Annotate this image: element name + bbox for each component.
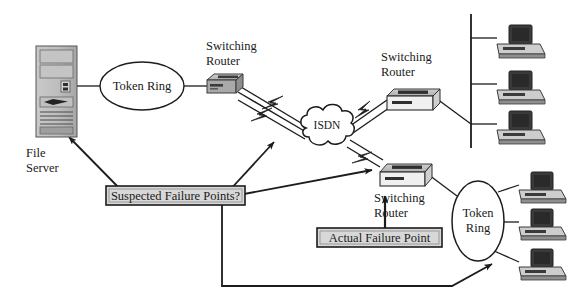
router-left-label-line2: Router <box>206 54 241 68</box>
lightning-bolt-icon <box>262 96 283 109</box>
router-top-right-label-line1: Switching <box>381 50 432 64</box>
isdn-trunk-bottom-right <box>347 140 383 167</box>
network-diagram: Token Ring Switching Router ISDN Switchi… <box>0 0 578 303</box>
workstation-bottom-3 <box>519 249 566 280</box>
router-left-icon <box>207 74 243 93</box>
isdn-trunk-left <box>236 84 306 139</box>
workstation-bottom-2 <box>519 209 566 240</box>
token-ring-right-label-line1: Token <box>462 206 494 220</box>
file-server-label-line1: File <box>26 146 46 160</box>
isdn-cloud-icon: ISDN <box>301 104 354 144</box>
workstation-top-2 <box>497 71 545 104</box>
suspected-failure-callout[interactable]: Suspected Failure Points? <box>106 186 245 205</box>
arrow-suspected-to-server <box>69 137 124 193</box>
tower-server-icon <box>36 46 77 137</box>
isdn-trunk-line-2 <box>238 92 306 132</box>
file-server-label-line2: Server <box>26 161 59 175</box>
isdn-link-bottom-2 <box>347 147 380 167</box>
diagram-canvas: Token Ring Switching Router ISDN Switchi… <box>0 0 578 303</box>
actual-failure-label: Actual Failure Point <box>329 231 431 245</box>
token-ring-right-node: Token Ring <box>452 181 504 261</box>
token-ring-right-label-line2: Ring <box>466 221 491 235</box>
router-top-right-icon <box>387 89 440 110</box>
lightning-bolt-icon <box>355 101 370 118</box>
isdn-trunk-top-right <box>350 100 389 133</box>
router-bottom-right-label-line2: Router <box>374 206 409 220</box>
isdn-label: ISDN <box>314 119 342 131</box>
lightning-bolt-icon <box>352 152 372 163</box>
router-top-right-label-line2: Router <box>381 65 416 79</box>
arrow-suspected-to-router-bottom <box>244 170 372 194</box>
token-ring-left-node: Token Ring <box>100 62 184 110</box>
workstation-top-3 <box>497 111 545 144</box>
router-left-label-line1: Switching <box>206 39 257 53</box>
ring-drop-3 <box>492 250 519 262</box>
workstation-bottom-1 <box>519 172 566 203</box>
router-bottom-right-label-line1: Switching <box>374 191 425 205</box>
workstation-top-1 <box>497 25 545 58</box>
isdn-link-bottom-1 <box>350 140 383 160</box>
router-bottom-right-icon <box>380 164 432 186</box>
suspected-failure-label: Suspected Failure Points? <box>111 189 241 203</box>
actual-failure-callout[interactable]: Actual Failure Point <box>317 228 442 247</box>
token-ring-left-label: Token Ring <box>113 79 172 93</box>
arrow-suspected-to-isdn-trunk <box>228 142 274 192</box>
ring-drop-1 <box>498 185 519 192</box>
